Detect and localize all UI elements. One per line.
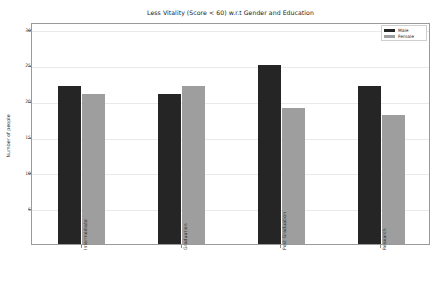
x-tick-label: Research bbox=[382, 228, 387, 250]
figure-canvas: Less Vitality (Score < 60) w.r.t Gender … bbox=[0, 0, 444, 287]
x-tick-mark bbox=[380, 245, 381, 248]
y-tick-label: 10 bbox=[9, 171, 31, 176]
legend: Male Female bbox=[381, 25, 427, 41]
x-tick-label: Post Graduation bbox=[282, 212, 287, 250]
y-tick-label: 5 bbox=[9, 207, 31, 212]
bar-male-post-graduation[interactable] bbox=[258, 65, 281, 244]
gridline bbox=[32, 67, 429, 68]
plot-area bbox=[31, 23, 430, 245]
x-tick-mark bbox=[181, 245, 182, 248]
x-tick-mark bbox=[81, 245, 82, 248]
legend-label-male: Male bbox=[398, 28, 408, 33]
gridline bbox=[32, 31, 429, 32]
legend-label-female: Female bbox=[398, 34, 414, 39]
y-tick-label: 20 bbox=[9, 99, 31, 104]
bar-female-research[interactable] bbox=[382, 115, 405, 244]
plot-inner bbox=[32, 24, 429, 244]
bar-male-research[interactable] bbox=[358, 86, 381, 244]
x-tick-label: Graduation bbox=[183, 223, 188, 250]
y-tick-label: 15 bbox=[9, 135, 31, 140]
legend-swatch-female-icon bbox=[384, 35, 395, 38]
bar-female-graduation[interactable] bbox=[182, 86, 205, 244]
bar-male-intermediate[interactable] bbox=[58, 86, 81, 244]
legend-swatch-male-icon bbox=[384, 29, 395, 32]
y-tick-label: 25 bbox=[9, 63, 31, 68]
x-tick-label: Intermediate bbox=[83, 219, 88, 250]
chart-title: Less Vitality (Score < 60) w.r.t Gender … bbox=[31, 9, 430, 17]
y-axis: Number of people 51015202530 bbox=[0, 23, 31, 245]
y-tick-label: 30 bbox=[9, 28, 31, 33]
legend-item-female[interactable]: Female bbox=[384, 33, 424, 39]
bar-male-graduation[interactable] bbox=[158, 94, 181, 244]
